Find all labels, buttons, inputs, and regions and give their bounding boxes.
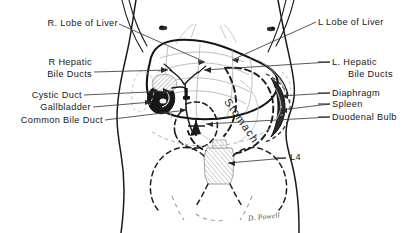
label-common-bile-duct-text: Common Bile Duct bbox=[21, 115, 103, 125]
label-duodenal-bulb-text: Duodenal Bulb bbox=[332, 112, 397, 122]
label-common-bile-duct: Common Bile Duct bbox=[0, 115, 103, 127]
label-gallbladder-text: Gallbladder bbox=[40, 102, 91, 112]
label-spleen: Spleen bbox=[332, 99, 363, 111]
duct-junction-marks bbox=[183, 88, 190, 100]
label-r-lobe-of-liver-text: R. Lobe of Liver bbox=[48, 18, 118, 28]
label-spleen-text: Spleen bbox=[332, 99, 363, 109]
anatomy-figure: R. Lobe of Liver R Hepatic Bile Ducts Cy… bbox=[0, 0, 416, 233]
label-l-lobe-of-liver: L Lobe of Liver bbox=[318, 17, 384, 29]
label-diaphragm: Diaphragm bbox=[332, 88, 380, 100]
label-cystic-duct-text: Cystic Duct bbox=[32, 90, 82, 100]
label-l-hepatic-bile-ducts: L. Hepatic Bile Ducts bbox=[332, 57, 393, 80]
label-r-hepatic-bile-ducts: R Hepatic Bile Ducts bbox=[0, 57, 92, 80]
label-l-hepatic-bile-ducts-line2: Bile Ducts bbox=[332, 69, 393, 81]
pelvic-brim-dashes bbox=[172, 196, 252, 221]
nipple-markers bbox=[159, 25, 275, 31]
label-r-hepatic-bile-ducts-line2: Bile Ducts bbox=[0, 69, 92, 81]
label-l-hepatic-bile-ducts-line1: L. Hepatic bbox=[332, 57, 377, 67]
label-cystic-duct: Cystic Duct bbox=[0, 90, 82, 102]
costal-margin-lines bbox=[122, 0, 294, 52]
leader-lines-left bbox=[84, 24, 205, 120]
label-l4-vertebra-text: L4 bbox=[290, 152, 301, 162]
label-duodenal-bulb: Duodenal Bulb bbox=[332, 112, 397, 124]
label-l-lobe-of-liver-text: L Lobe of Liver bbox=[318, 17, 384, 27]
label-l4-vertebra: L4 bbox=[290, 152, 301, 164]
label-r-hepatic-bile-ducts-line1: R Hepatic bbox=[49, 57, 93, 67]
label-r-lobe-of-liver: R. Lobe of Liver bbox=[6, 18, 118, 30]
label-diaphragm-text: Diaphragm bbox=[332, 88, 380, 98]
label-gallbladder: Gallbladder bbox=[0, 102, 91, 114]
